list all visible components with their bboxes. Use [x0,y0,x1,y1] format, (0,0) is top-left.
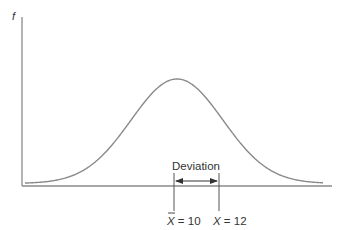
svg-text:X = 10: X = 10 [166,215,201,227]
observation-value-text: = 12 [221,215,247,227]
deviation-label: Deviation [172,160,220,172]
svg-text:X = 12: X = 12 [212,215,247,227]
mean-value-text: = 10 [175,215,201,227]
y-axis-label: f [12,10,16,22]
normal-distribution-diagram: f Deviation X = 10 X = 12 [0,0,356,230]
mean-label: X = 10 [166,213,201,227]
observation-label: X = 12 [212,215,247,227]
